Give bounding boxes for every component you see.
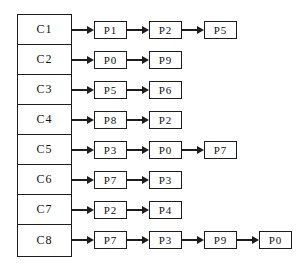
- p-node: P1: [94, 21, 127, 39]
- arrow-line: [71, 239, 88, 241]
- c-cell-label: C4: [18, 105, 71, 135]
- arrow-line: [71, 119, 88, 121]
- arrow-line: [126, 209, 143, 211]
- arrow-line: [126, 179, 143, 181]
- arrow-line: [181, 29, 198, 31]
- arrow-head-icon: [142, 146, 149, 154]
- arrow-head-icon: [197, 26, 204, 34]
- c-cell-label: C6: [18, 165, 71, 195]
- p-node: P0: [149, 141, 182, 159]
- p-node: P2: [149, 111, 182, 129]
- p-node: P3: [94, 141, 127, 159]
- p-node: P9: [149, 51, 182, 69]
- p-node: P7: [94, 171, 127, 189]
- arrow-head-icon: [142, 26, 149, 34]
- arrow-head-icon: [87, 146, 94, 154]
- arrow-line: [71, 89, 88, 91]
- p-node: P3: [149, 231, 182, 249]
- p-node: P7: [94, 231, 127, 249]
- p-node: P8: [94, 111, 127, 129]
- c-column: C1C2C3C4C5C6C7C8: [17, 14, 72, 257]
- arrow-head-icon: [142, 206, 149, 214]
- arrow-head-icon: [87, 116, 94, 124]
- c-cell-label: C2: [18, 45, 71, 75]
- arrow-line: [71, 179, 88, 181]
- p-node: P2: [149, 21, 182, 39]
- arrow-line: [126, 59, 143, 61]
- p-node: P7: [204, 141, 237, 159]
- linked-list-diagram: C1C2C3C4C5C6C7C8P1P2P5P0P9P5P6P8P2P3P0P7…: [0, 0, 306, 264]
- arrow-line: [181, 239, 198, 241]
- arrow-line: [71, 149, 88, 151]
- p-node: P2: [94, 201, 127, 219]
- arrow-head-icon: [87, 206, 94, 214]
- c-cell-label: C3: [18, 75, 71, 105]
- arrow-line: [126, 89, 143, 91]
- arrow-head-icon: [197, 236, 204, 244]
- arrow-line: [126, 149, 143, 151]
- arrow-line: [126, 29, 143, 31]
- arrow-head-icon: [142, 116, 149, 124]
- p-node: P4: [149, 201, 182, 219]
- arrow-head-icon: [87, 26, 94, 34]
- arrow-line: [126, 239, 143, 241]
- p-node: P9: [204, 231, 237, 249]
- c-cell-label: C8: [18, 225, 71, 255]
- arrow-head-icon: [252, 236, 259, 244]
- arrow-head-icon: [197, 146, 204, 154]
- c-cell-label: C1: [18, 15, 71, 45]
- arrow-head-icon: [142, 86, 149, 94]
- arrow-head-icon: [87, 176, 94, 184]
- arrow-head-icon: [142, 56, 149, 64]
- p-node: P5: [204, 21, 237, 39]
- arrow-head-icon: [87, 56, 94, 64]
- arrow-head-icon: [87, 86, 94, 94]
- p-node: P0: [94, 51, 127, 69]
- p-node: P6: [149, 81, 182, 99]
- c-cell-label: C7: [18, 195, 71, 225]
- arrow-line: [71, 59, 88, 61]
- p-node: P0: [259, 231, 292, 249]
- p-node: P5: [94, 81, 127, 99]
- c-cell-label: C5: [18, 135, 71, 165]
- arrow-line: [71, 209, 88, 211]
- arrow-line: [71, 29, 88, 31]
- arrow-line: [181, 149, 198, 151]
- arrow-line: [126, 119, 143, 121]
- p-node: P3: [149, 171, 182, 189]
- arrow-head-icon: [142, 176, 149, 184]
- arrow-head-icon: [142, 236, 149, 244]
- arrow-line: [236, 239, 253, 241]
- arrow-head-icon: [87, 236, 94, 244]
